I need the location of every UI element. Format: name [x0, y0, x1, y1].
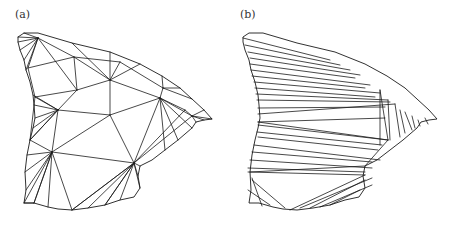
tip-fan-edge — [395, 104, 400, 137]
tip-fan-edge — [388, 100, 390, 140]
fan-edge — [34, 152, 52, 203]
fan-edge — [105, 163, 134, 205]
sliver-edge — [255, 88, 375, 97]
sliver-edge — [258, 125, 388, 140]
sliver-edge — [258, 104, 395, 114]
bottom-fan-edge — [252, 178, 262, 206]
tip-fan-edge — [400, 110, 405, 133]
sliver-edge — [258, 107, 385, 108]
panel-b-mesh — [243, 33, 437, 210]
sliver-edge — [245, 45, 340, 65]
mesh-edge — [120, 62, 163, 88]
mesh-edge — [30, 97, 35, 140]
fan-edge — [192, 116, 212, 119]
mesh-edge — [110, 98, 160, 115]
triangulation-figure — [0, 0, 450, 226]
mesh-edge — [52, 152, 72, 210]
fan-edge — [33, 110, 58, 128]
sliver-edge — [256, 94, 388, 100]
mesh-edge — [52, 152, 134, 163]
fan-edge — [192, 110, 204, 116]
sliver-edge — [258, 118, 385, 122]
mesh-edge — [28, 57, 74, 68]
fan-edge — [72, 43, 110, 80]
mesh-edge — [74, 57, 77, 90]
bottom-fan-edge — [310, 180, 365, 208]
mesh-edge — [58, 110, 110, 115]
mesh-edge — [134, 110, 185, 163]
mesh-edge — [48, 152, 52, 207]
fan-edge — [24, 152, 52, 203]
fan-edge — [26, 152, 52, 190]
sliver-edge — [257, 132, 382, 145]
mesh-edge — [28, 68, 35, 97]
sliver-edge — [248, 52, 350, 70]
fan-edge — [88, 163, 134, 208]
mesh-edge — [52, 110, 58, 152]
fan-edge — [162, 76, 163, 88]
sliver-edge — [257, 100, 390, 102]
mesh-edge — [52, 115, 110, 152]
fan-edge — [163, 88, 192, 99]
mesh-edge — [134, 116, 192, 163]
mesh-edge — [110, 115, 134, 163]
mesh-edge — [134, 98, 160, 163]
tip-fan-edge — [405, 112, 412, 130]
sliver-edge — [258, 137, 378, 150]
mesh-edge — [110, 80, 160, 98]
sliver-edge — [258, 122, 388, 140]
mesh-edge — [160, 88, 163, 98]
sliver-edge — [380, 90, 388, 140]
mesh-edge — [160, 98, 185, 110]
mesh-edge — [30, 140, 52, 152]
sliver-edge — [243, 38, 330, 60]
mesh-edge — [77, 80, 110, 90]
panel-a-mesh — [18, 33, 212, 210]
mesh-edge — [38, 38, 74, 57]
mesh-edge — [35, 90, 77, 97]
sliver-edge — [248, 172, 365, 175]
tip-fan-edge — [412, 116, 415, 128]
fan-edge — [160, 98, 165, 150]
